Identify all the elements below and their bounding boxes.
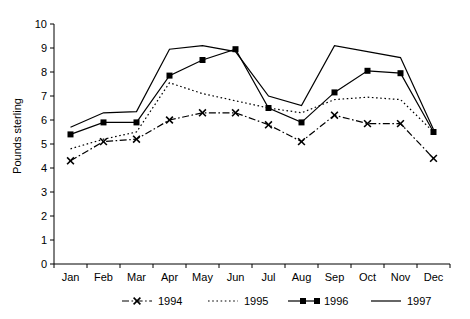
series-line-1996: [71, 49, 434, 134]
x-tick-label: Mar: [127, 271, 146, 283]
series-marker-1996: [266, 105, 272, 111]
legend-label-1995: 1995: [244, 295, 268, 307]
y-tick-label: 7: [41, 90, 47, 102]
series-1997: [71, 46, 434, 130]
series-marker-1996: [365, 68, 371, 74]
y-tick-label: 9: [41, 42, 47, 54]
chart-legend: 1994199519961997: [122, 295, 431, 307]
series-line-1995: [71, 83, 434, 149]
y-tick-label: 1: [41, 234, 47, 246]
series-1995: [71, 83, 434, 149]
series-marker-1996: [332, 89, 338, 95]
y-tick-label: 10: [35, 18, 47, 30]
x-tick-label: Aug: [292, 271, 312, 283]
y-tick-label: 2: [41, 210, 47, 222]
series-marker-1996: [101, 119, 107, 125]
legend-marker-1996: [314, 298, 320, 304]
x-tick-label: Jun: [227, 271, 245, 283]
x-tick-label: Jan: [62, 271, 80, 283]
x-tick-label: Apr: [161, 271, 178, 283]
legend-marker-1996: [300, 298, 306, 304]
x-tick-label: Feb: [94, 271, 113, 283]
y-tick-label: 0: [41, 258, 47, 270]
x-tick-label: Nov: [391, 271, 411, 283]
y-tick-label: 3: [41, 186, 47, 198]
chart-canvas: 012345678910 JanFebMarAprMayJunJulAugSep…: [0, 0, 470, 319]
data-series-layer: [67, 46, 437, 165]
x-tick-label: Dec: [424, 271, 444, 283]
axis-lines: [54, 24, 450, 264]
y-tick-label: 6: [41, 114, 47, 126]
series-marker-1996: [68, 131, 74, 137]
series-line-1994: [71, 113, 434, 161]
series-line-1997: [71, 46, 434, 130]
series-marker-1996: [299, 119, 305, 125]
y-tick-label: 4: [41, 162, 47, 174]
x-tick-label: Sep: [325, 271, 345, 283]
series-1996: [68, 46, 437, 137]
series-marker-1996: [431, 129, 437, 135]
x-tick-label: May: [192, 271, 213, 283]
y-axis-ticks: 012345678910: [35, 18, 54, 270]
y-tick-label: 5: [41, 138, 47, 150]
x-axis-ticks: JanFebMarAprMayJunJulAugSepOctNovDec: [54, 264, 450, 283]
legend-label-1996: 1996: [324, 295, 348, 307]
x-tick-label: Oct: [359, 271, 376, 283]
legend-label-1997: 1997: [407, 295, 431, 307]
y-tick-label: 8: [41, 66, 47, 78]
series-marker-1996: [398, 70, 404, 76]
line-chart-figure: Pounds sterling 012345678910 JanFebMarAp…: [0, 0, 470, 319]
series-marker-1996: [134, 119, 140, 125]
series-1994: [67, 109, 437, 164]
legend-label-1994: 1994: [158, 295, 182, 307]
x-tick-label: Jul: [261, 271, 275, 283]
series-marker-1996: [167, 73, 173, 79]
series-marker-1996: [200, 57, 206, 63]
